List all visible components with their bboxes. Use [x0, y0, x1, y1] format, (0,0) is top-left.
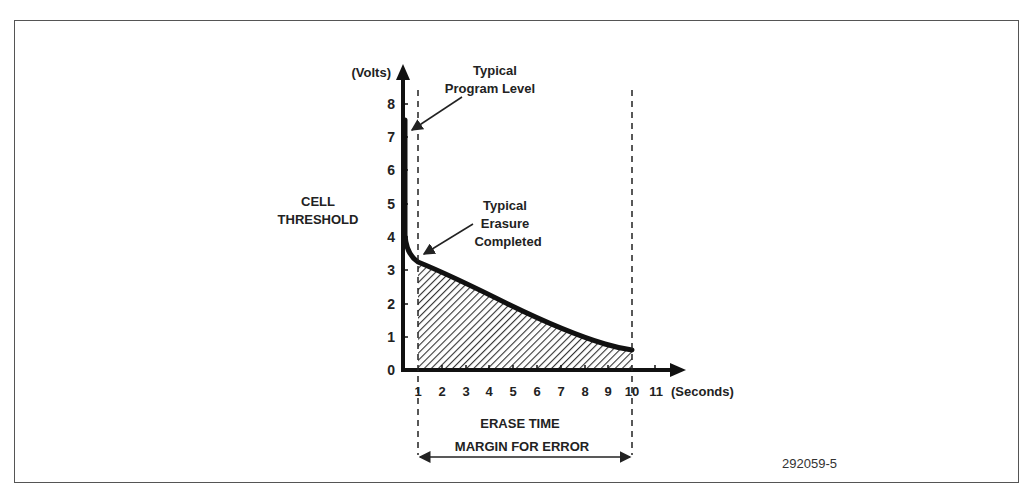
svg-text:8: 8	[581, 384, 588, 399]
annot-erase-line1: Typical	[483, 198, 527, 213]
annot-erase-arrow	[424, 224, 473, 254]
x-axis-arrow-icon	[670, 363, 686, 377]
svg-text:6: 6	[533, 384, 540, 399]
y-title-line1: CELL	[301, 194, 335, 209]
x-tick-labels: 1 2 3 4 5 6 7 8 9 10 11	[414, 384, 662, 399]
y-tick-labels: 0 1 2 3 4 5 6 7 8	[387, 96, 395, 378]
annot-erase-line2: Erasure	[481, 216, 529, 231]
svg-text:10: 10	[625, 384, 639, 399]
y-unit-label: (Volts)	[352, 65, 391, 80]
svg-text:7: 7	[387, 129, 395, 145]
svg-text:2: 2	[438, 384, 445, 399]
erase-chart: 0 1 2 3 4 5 6 7 8 1 2 3 4 5 6 7 8 9 10 1…	[0, 0, 1029, 495]
annot-program-arrow	[412, 97, 462, 130]
svg-text:3: 3	[462, 384, 469, 399]
annot-program-line1: Typical	[473, 63, 517, 78]
margin-label: MARGIN FOR ERROR	[455, 439, 590, 454]
svg-text:8: 8	[387, 96, 395, 112]
svg-text:1: 1	[387, 329, 395, 345]
svg-text:5: 5	[509, 384, 516, 399]
erase-time-label: ERASE TIME	[480, 416, 560, 431]
svg-text:2: 2	[387, 296, 395, 312]
y-axis-arrow-icon	[396, 64, 410, 80]
y-title-line2: THRESHOLD	[278, 212, 359, 227]
shaded-erase-area	[418, 263, 632, 370]
svg-text:3: 3	[387, 262, 395, 278]
annot-erase-line3: Completed	[474, 234, 541, 249]
figure-number: 292059-5	[782, 456, 837, 471]
svg-text:4: 4	[485, 384, 493, 399]
svg-text:11: 11	[649, 384, 663, 399]
svg-text:6: 6	[387, 162, 395, 178]
svg-text:5: 5	[387, 196, 395, 212]
svg-text:0: 0	[387, 362, 395, 378]
annot-program-line2: Program Level	[445, 81, 535, 96]
svg-text:9: 9	[604, 384, 611, 399]
svg-text:1: 1	[414, 384, 421, 399]
svg-text:7: 7	[557, 384, 564, 399]
svg-text:4: 4	[387, 229, 395, 245]
x-unit-label: (Seconds)	[671, 384, 734, 399]
